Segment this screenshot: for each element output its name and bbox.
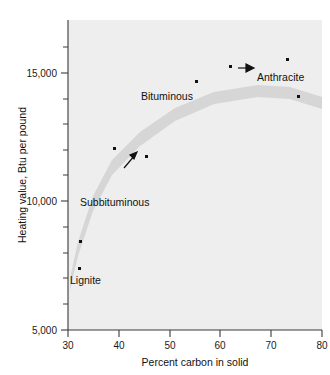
x-tick-label-50: 50 — [164, 340, 176, 351]
y-tick-label-15000: 15,000 — [26, 68, 57, 79]
data-point — [78, 267, 81, 270]
x-tick-label-60: 60 — [214, 340, 226, 351]
data-point — [297, 95, 300, 98]
annotation-lignite: Lignite — [70, 274, 101, 286]
data-point — [229, 65, 232, 68]
scatter-plot-svg: 15,000 10,000 5,000 30 40 50 60 70 80 Li… — [0, 0, 330, 375]
arrow-right-icon — [238, 64, 254, 72]
trend-band — [70, 85, 322, 290]
x-tick-label-30: 30 — [62, 340, 74, 351]
data-point — [286, 58, 289, 61]
y-axis-title: Heating value, Btu per pound — [16, 107, 28, 243]
x-tick-label-40: 40 — [113, 340, 125, 351]
annotation-bituminous: Bituminous — [141, 90, 193, 102]
annotation-subbituminous: Subbituminous — [80, 196, 149, 208]
data-point — [79, 240, 82, 243]
x-tick-label-70: 70 — [265, 340, 277, 351]
data-point — [145, 155, 148, 158]
x-axis-title: Percent carbon in solid — [142, 356, 249, 368]
x-tick-label-80: 80 — [316, 340, 328, 351]
annotation-anthracite: Anthracite — [257, 71, 304, 83]
data-point — [113, 147, 116, 150]
y-tick-label-5000: 5,000 — [32, 325, 57, 336]
chart-figure: 15,000 10,000 5,000 30 40 50 60 70 80 Li… — [0, 0, 330, 375]
y-tick-label-10000: 10,000 — [26, 196, 57, 207]
data-point — [195, 80, 198, 83]
